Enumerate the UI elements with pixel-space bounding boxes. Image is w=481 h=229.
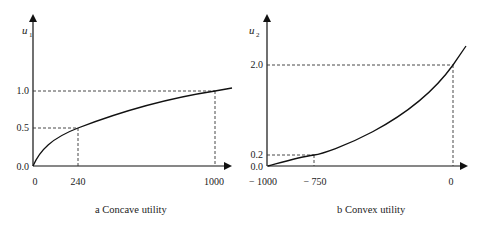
y-axis-label-sub: 2 — [256, 31, 260, 39]
chart-a-concave: u 1 0.0 0.5 1.0 0 240 1000 — [17, 18, 233, 187]
convex-curve — [268, 46, 466, 166]
guide-lines — [267, 65, 453, 166]
x-tick: 0 — [33, 176, 38, 187]
y-axis-label-sub: 1 — [29, 31, 33, 39]
concave-curve — [33, 88, 232, 166]
y-axis-label: u — [22, 24, 28, 36]
y-tick: 1.0 — [17, 85, 30, 96]
caption-b: b Convex utility — [337, 204, 405, 215]
y-tick: 0.0 — [251, 161, 264, 172]
y-tick: 0.5 — [17, 122, 30, 133]
y-tick: 0.0 — [17, 161, 30, 172]
x-tick: 240 — [71, 176, 86, 187]
chart-b-convex: u 2 0.0 0.2 2.0 − 1000 − 750 0 — [249, 18, 466, 187]
x-tick: 0 — [449, 176, 454, 187]
x-tick: − 750 — [303, 176, 326, 187]
x-tick: 1000 — [204, 176, 224, 187]
guide-lines — [33, 91, 215, 166]
y-axis-label: u — [249, 24, 255, 36]
y-tick: 2.0 — [251, 59, 264, 70]
x-tick: − 1000 — [249, 176, 277, 187]
caption-a: a Concave utility — [95, 204, 167, 215]
utility-charts: u 1 0.0 0.5 1.0 0 240 1000 u 2 0.0 0.2 2… — [0, 0, 481, 229]
y-tick: 0.2 — [251, 149, 264, 160]
